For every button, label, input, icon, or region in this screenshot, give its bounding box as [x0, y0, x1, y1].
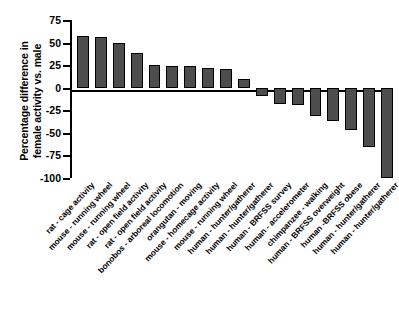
y-tick-mark [63, 110, 70, 112]
bar [220, 69, 232, 88]
bar [113, 43, 125, 87]
bar [310, 88, 322, 116]
x-axis-labels: rat - cage activitymouse - running wheel… [70, 180, 399, 320]
bar [363, 88, 375, 148]
y-tick-mark [63, 155, 70, 157]
bar [292, 88, 304, 105]
y-tick-mark [63, 43, 70, 45]
bar [77, 36, 89, 87]
plot-area: 7550250-25-50-75-100 [70, 20, 392, 178]
y-tick-label: 50 [49, 37, 61, 49]
y-tick-mark [63, 88, 70, 90]
y-tick-label: -25 [46, 104, 61, 116]
bar [381, 88, 393, 178]
bar [274, 88, 286, 104]
bar [166, 66, 178, 88]
y-tick-mark [63, 178, 70, 180]
y-tick-label: 75 [49, 14, 61, 26]
bar [202, 68, 214, 88]
y-tick-mark [63, 133, 70, 135]
bar [238, 79, 250, 88]
y-tick-label: 0 [55, 82, 61, 94]
y-tick-label: -100 [40, 172, 61, 184]
bar [131, 53, 143, 88]
bar [184, 66, 196, 88]
bar [149, 65, 161, 88]
bar [327, 88, 339, 121]
y-tick-label: -75 [46, 149, 61, 161]
bar-series [72, 20, 392, 178]
y-tick-mark [63, 65, 70, 67]
bar [256, 88, 268, 96]
y-tick-mark [63, 20, 70, 22]
bar [345, 88, 357, 130]
y-tick-label: -50 [46, 127, 61, 139]
bar [95, 37, 107, 88]
chart-figure: Percentage difference in female activity… [0, 0, 399, 326]
y-tick-label: 25 [49, 59, 61, 71]
y-axis-title: Percentage difference in female activity… [18, 9, 44, 194]
